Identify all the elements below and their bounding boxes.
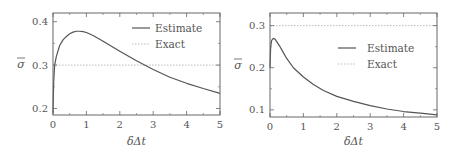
y-axis-label: σ [234, 59, 242, 72]
x-tick-label: 1 [83, 119, 89, 130]
x-tick-label: 5 [217, 119, 223, 130]
x-tick-label: 0 [50, 119, 56, 130]
y-axis-label: σ [17, 58, 25, 71]
x-tick-label: 2 [334, 121, 340, 132]
y-tick-label: 0.4 [32, 16, 48, 27]
x-tick-label: 4 [183, 119, 189, 130]
chart-left: 0123450.20.30.4δΔtσEstimateExact [17, 13, 223, 148]
x-tick-label: 3 [150, 119, 156, 130]
x-tick-label: 5 [434, 121, 440, 132]
legend-label-estimate: Estimate [367, 42, 414, 54]
x-tick-label: 3 [367, 121, 373, 132]
x-axis-label: δΔt [127, 135, 147, 148]
legend-label-exact: Exact [155, 38, 186, 50]
figure: 0123450.20.30.4δΔtσEstimateExact 0123450… [0, 0, 458, 154]
x-axis-label: δΔt [344, 135, 364, 148]
x-tick-label: 0 [267, 121, 273, 132]
x-tick-label: 1 [300, 121, 306, 132]
x-tick-label: 4 [400, 121, 406, 132]
legend-label-estimate: Estimate [155, 22, 202, 34]
legend-label-exact: Exact [367, 58, 398, 70]
x-tick-label: 2 [117, 119, 123, 130]
y-tick-label: 0.1 [249, 104, 265, 115]
y-tick-label: 0.2 [32, 103, 48, 114]
series-estimate [53, 31, 220, 113]
y-tick-label: 0.2 [249, 62, 265, 73]
y-tick-label: 0.3 [32, 60, 48, 71]
chart-right: 0123450.10.20.3δΔtσEstimateExact [234, 13, 440, 148]
y-tick-label: 0.3 [249, 20, 265, 31]
